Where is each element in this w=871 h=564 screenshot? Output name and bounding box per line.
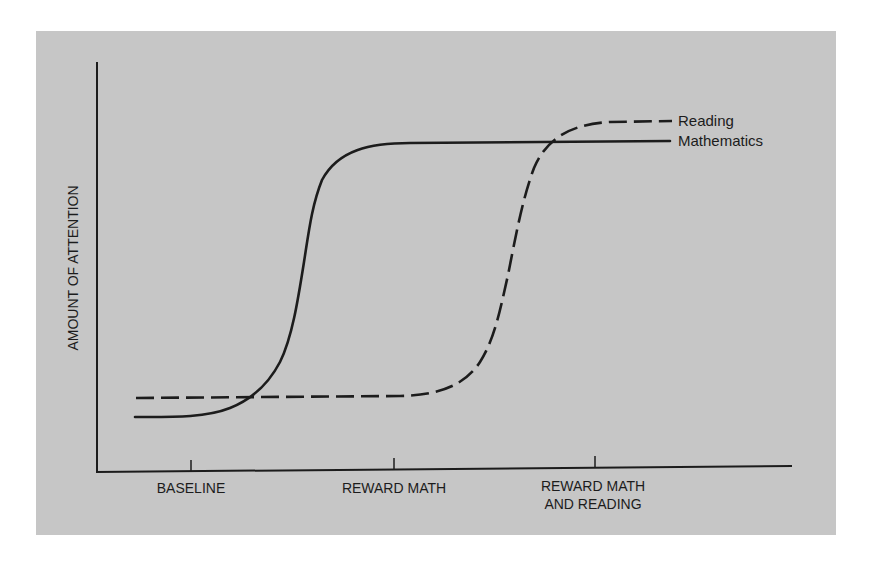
legend-mathematics: Mathematics bbox=[678, 132, 763, 149]
x-label-reward-math-reading-1: REWARD MATH bbox=[541, 478, 645, 494]
x-label-reward-math-reading-2: AND READING bbox=[544, 496, 641, 512]
x-axis bbox=[96, 466, 792, 472]
x-label-reward-math: REWARD MATH bbox=[342, 480, 446, 496]
series-mathematics-line bbox=[135, 141, 670, 417]
y-axis-label: AMOUNT OF ATTENTION bbox=[65, 185, 81, 350]
series-reading-line bbox=[136, 121, 672, 398]
legend-reading: Reading bbox=[678, 112, 734, 129]
x-label-baseline: BASELINE bbox=[157, 480, 225, 496]
attention-chart: Reading Mathematics BASELINE REWARD MATH… bbox=[0, 0, 871, 564]
